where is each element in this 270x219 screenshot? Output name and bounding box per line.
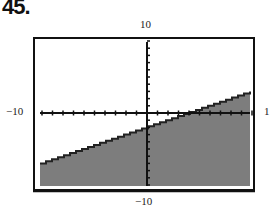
shaded-region [40,91,250,186]
calculator-graph [0,0,270,219]
